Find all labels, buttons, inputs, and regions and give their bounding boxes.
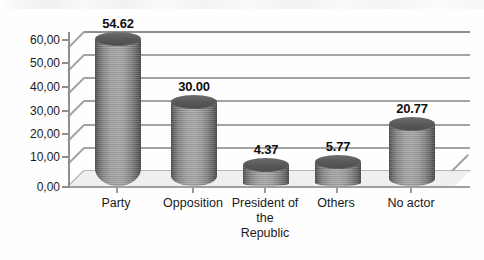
gridline-40 [84, 77, 470, 79]
bar-others-cap [315, 155, 361, 169]
x-axis-label-party: Party [76, 196, 156, 211]
x-axis-label-no-actor-line-1: No actor [372, 196, 450, 211]
y-axis-label-60: 60,00 [6, 34, 60, 46]
y-tick-20 [62, 133, 69, 135]
y-tick-60 [62, 39, 69, 41]
data-label-party: 54.62 [88, 17, 148, 30]
x-axis-label-no-actor: No actor [372, 196, 450, 211]
bar-opposition-cap [171, 95, 217, 109]
y-axis-label-40: 40,00 [6, 81, 60, 93]
y-axis-label-50: 50,00 [6, 57, 60, 69]
x-axis-label-others-line-1: Others [300, 196, 372, 211]
plot-area: 60,00 50,00 40,00 30,00 20,00 10,00 0,00 [0, 0, 484, 260]
bar-others[interactable] [315, 155, 361, 193]
bar-opposition-body [171, 102, 217, 186]
data-label-opposition: 30.00 [164, 80, 224, 93]
bar-president-cap [243, 158, 289, 172]
y-tick-50 [62, 62, 69, 64]
y-axis-label-10: 10,00 [6, 151, 60, 163]
x-axis-label-opposition: Opposition [150, 196, 236, 211]
bar-no-actor[interactable] [389, 117, 435, 193]
y-tick-10 [62, 156, 69, 158]
x-tick-president [264, 188, 266, 193]
x-axis-label-others: Others [300, 196, 372, 211]
bar-no-actor-body [389, 124, 435, 186]
x-axis-label-party-line-1: Party [76, 196, 156, 211]
y-axis-label-0: 0,00 [6, 181, 60, 193]
x-axis-label-opposition-line-1: Opposition [150, 196, 236, 211]
data-label-no-actor: 20.77 [382, 102, 442, 115]
bar-president-of-the-republic[interactable] [243, 158, 289, 193]
x-axis-label-president-line-3: Republic [228, 226, 302, 241]
bar-no-actor-cap [389, 117, 435, 131]
bar-party[interactable] [95, 32, 141, 193]
bar-party-cap [95, 32, 141, 46]
x-tick-party [116, 188, 118, 193]
x-tick-opposition [192, 188, 194, 193]
y-axis-label-30: 30,00 [6, 105, 60, 117]
y-tick-0 [62, 186, 69, 188]
y-axis-label-20: 20,00 [6, 128, 60, 140]
x-tick-no-actor [410, 188, 412, 193]
y-tick-40 [62, 86, 69, 88]
y-tick-30 [62, 110, 69, 112]
gridline-60 [84, 31, 470, 33]
bar-chart: 60,00 50,00 40,00 30,00 20,00 10,00 0,00 [0, 0, 484, 260]
x-axis-label-president: President of the Republic [228, 196, 302, 241]
x-tick-others [336, 188, 338, 193]
bar-party-body [95, 39, 141, 186]
x-axis-label-president-line-2: the [228, 211, 302, 226]
bar-opposition[interactable] [171, 95, 217, 193]
gridline-50 [84, 54, 470, 56]
x-axis-label-president-line-1: President of [228, 196, 302, 211]
data-label-president: 4.37 [236, 143, 296, 156]
data-label-others: 5.77 [308, 140, 368, 153]
